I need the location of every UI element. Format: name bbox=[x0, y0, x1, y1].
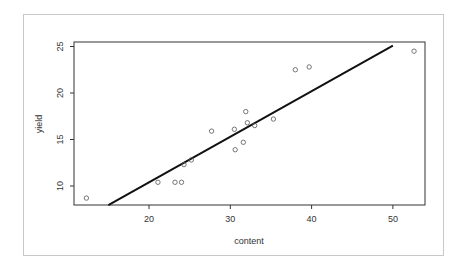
y-tick-label: 20 bbox=[55, 88, 65, 98]
x-tick-label: 30 bbox=[225, 214, 235, 224]
data-point bbox=[209, 129, 213, 133]
data-point bbox=[271, 117, 275, 121]
scatter-plot: 20304050 10152025 content yield bbox=[0, 0, 467, 275]
data-point bbox=[84, 196, 88, 200]
data-point bbox=[293, 68, 297, 72]
x-axis: 20304050 bbox=[144, 205, 398, 224]
x-tick-label: 40 bbox=[307, 214, 317, 224]
x-tick-label: 50 bbox=[388, 214, 398, 224]
y-tick-label: 25 bbox=[55, 41, 65, 51]
data-point bbox=[245, 121, 249, 125]
data-point bbox=[179, 180, 183, 184]
y-tick-label: 15 bbox=[55, 134, 65, 144]
y-tick-label: 10 bbox=[55, 181, 65, 191]
data-point bbox=[307, 65, 311, 69]
data-point bbox=[241, 140, 245, 144]
data-point bbox=[233, 148, 237, 152]
data-point bbox=[244, 109, 248, 113]
data-point bbox=[412, 49, 416, 53]
data-point bbox=[156, 180, 160, 184]
data-point bbox=[173, 180, 177, 184]
y-axis: 10152025 bbox=[55, 41, 74, 191]
y-axis-label: yield bbox=[34, 115, 44, 134]
x-axis-label: content bbox=[234, 236, 264, 246]
regression-line bbox=[108, 46, 393, 205]
data-point bbox=[232, 127, 236, 131]
x-tick-label: 20 bbox=[144, 214, 154, 224]
